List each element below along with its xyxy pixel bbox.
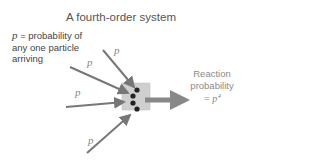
result-exponent: 4 [217,92,221,100]
result-line1: Reaction [193,68,231,79]
result-equation: = p [203,93,217,104]
particle [130,93,135,98]
reaction-box [122,83,150,110]
arrow-label: p [75,86,81,98]
arrow-label: p [114,44,120,56]
particle [130,100,135,105]
arrow-label: p [88,134,94,146]
reaction-probability: Reaction probability = p4 [183,68,241,105]
particle [134,106,139,111]
arrow-label: p [87,56,93,68]
particle [134,87,139,92]
result-line2: probability [190,80,233,91]
arrow-3 [66,102,124,107]
